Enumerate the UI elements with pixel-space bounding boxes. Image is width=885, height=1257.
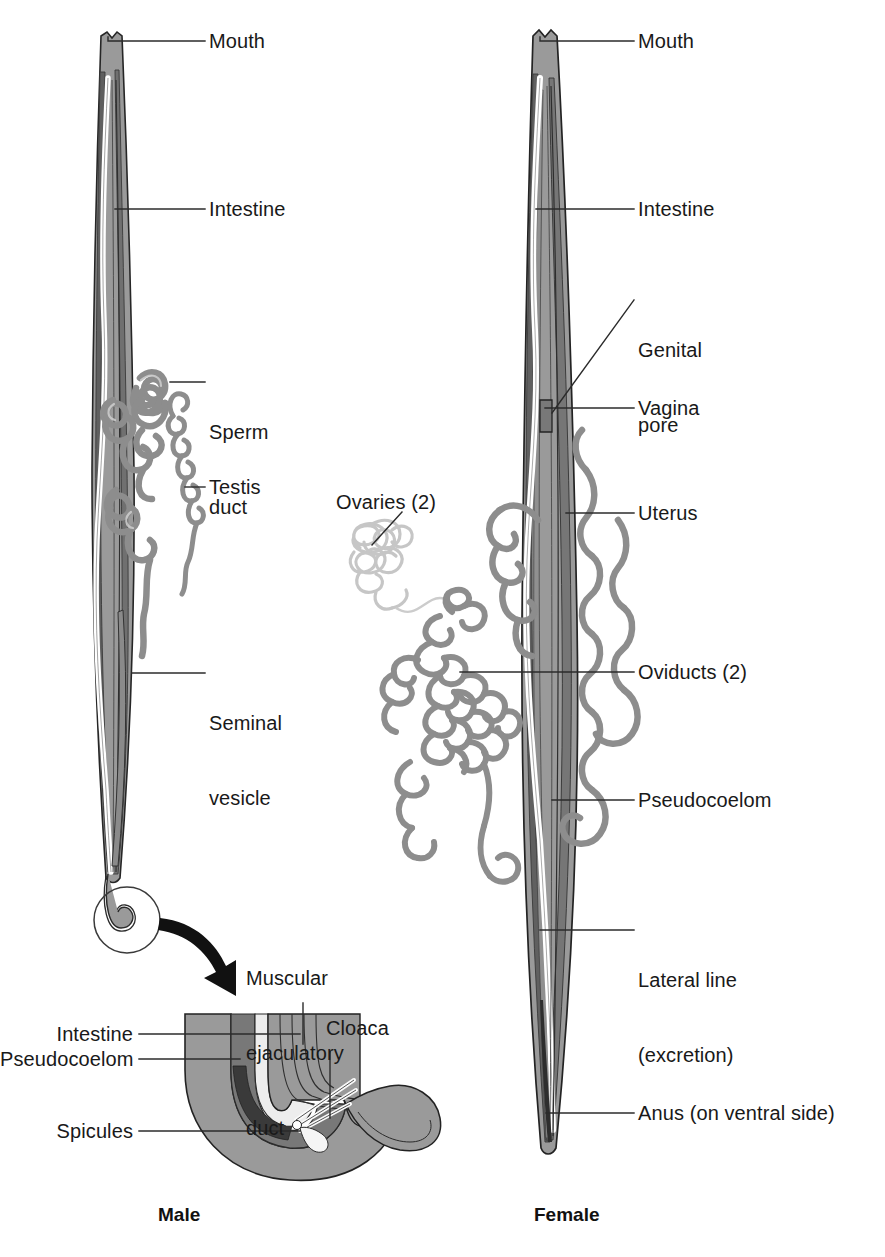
- female-worm-body: [522, 30, 578, 1154]
- female-ovaries: [350, 520, 412, 609]
- female-label-lateral-line-line1: Lateral line: [638, 968, 737, 993]
- male-label-sperm-duct-line1: Sperm: [209, 420, 268, 445]
- male-label-seminal-vesicle: Seminal vesicle: [209, 661, 282, 836]
- male-testis: [168, 394, 203, 594]
- inset-label-intestine: Intestine: [0, 1022, 133, 1047]
- inset-label-med-line3: duct: [246, 1116, 344, 1141]
- female-label-uterus: Uterus: [638, 501, 698, 526]
- male-label-mouth: Mouth: [209, 29, 265, 54]
- female-label-oviducts: Oviducts (2): [638, 660, 747, 685]
- inset-label-med-line2: ejaculatory: [246, 1041, 344, 1066]
- anatomy-figure: Mouth Intestine Sperm duct Testis Semina…: [0, 0, 885, 1257]
- inset-label-muscular-ejaculatory-duct: Muscular ejaculatory duct: [246, 916, 344, 1166]
- female-label-lateral-line: Lateral line (excretion): [638, 918, 737, 1093]
- caption-female: Female: [534, 1204, 599, 1226]
- female-label-anus: Anus (on ventral side): [638, 1101, 835, 1126]
- male-label-sperm-duct: Sperm duct: [209, 370, 268, 545]
- male-label-seminal-vesicle-line1: Seminal: [209, 711, 282, 736]
- inset-label-cloaca: Cloaca: [326, 1016, 389, 1041]
- male-label-seminal-vesicle-line2: vesicle: [209, 786, 282, 811]
- female-oviducts: [382, 590, 520, 882]
- vagina-shape: [540, 400, 552, 432]
- male-label-intestine: Intestine: [209, 197, 286, 222]
- female-label-vagina: Vagina: [638, 396, 699, 421]
- female-label-pseudocoelom: Pseudocoelom: [638, 788, 772, 813]
- inset-label-pseudocoelom: Pseudocoelom: [0, 1047, 133, 1072]
- male-worm-body: [92, 32, 135, 931]
- female-label-lateral-line-line2: (excretion): [638, 1043, 737, 1068]
- female-label-genital-pore: Genital pore: [638, 288, 702, 463]
- caption-male: Male: [158, 1204, 200, 1226]
- inset-label-spicules: Spicules: [0, 1119, 133, 1144]
- zoom-arrow-icon: [158, 918, 236, 996]
- male-label-testis: Testis: [209, 475, 261, 500]
- female-label-genital-pore-line1: Genital: [638, 338, 702, 363]
- female-label-intestine: Intestine: [638, 197, 715, 222]
- inset-label-med-line1: Muscular: [246, 966, 344, 991]
- female-label-mouth: Mouth: [638, 29, 694, 54]
- female-label-ovaries: Ovaries (2): [336, 490, 436, 515]
